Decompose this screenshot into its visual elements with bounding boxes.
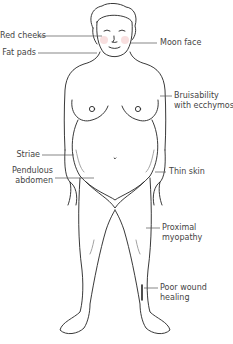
abdomen [72,120,158,200]
label-pendulous-abdomen: Pendulous abdomen [0,166,53,186]
label-proximal-myopathy: Proximal myopathy [162,223,202,243]
face [97,15,132,56]
label-poor-wound-healing: Poor wound healing [160,283,207,303]
label-moon-face: Moon face [160,38,201,48]
label-striae: Striae [0,150,40,160]
label-fat-pads: Fat pads [0,48,36,58]
label-bruisability: Bruisability with ecchymoses [174,91,233,111]
label-thin-skin: Thin skin [169,167,205,177]
label-red-cheeks: Red cheeks [0,31,36,41]
